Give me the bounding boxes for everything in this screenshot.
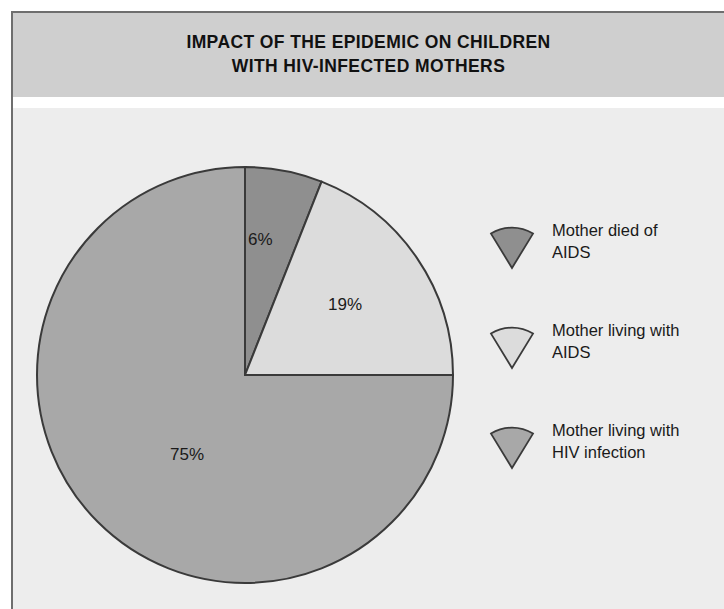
legend-line-1: Mother died of — [552, 220, 657, 242]
chart-figure: IMPACT OF THE EPIDEMIC ON CHILDREN WITH … — [0, 0, 724, 609]
legend-line-1: Mother living with — [552, 420, 679, 442]
legend-line-2: HIV infection — [552, 442, 679, 464]
legend-label-mother-living-with-aids: Mother living with AIDS — [552, 318, 679, 364]
legend-line-2: AIDS — [552, 342, 679, 364]
slice-label-living-hiv: 75% — [170, 445, 204, 465]
legend-item-mother-living-with-hiv: Mother living with HIV infection — [486, 418, 716, 518]
legend-wedge-icon-mother-living-with-hiv — [486, 420, 538, 472]
legend-label-mother-died-of-aids: Mother died of AIDS — [552, 218, 657, 264]
legend-wedge-icon-mother-living-with-aids — [486, 320, 538, 372]
legend-item-mother-died-of-aids: Mother died of AIDS — [486, 218, 716, 318]
chart-legend: Mother died of AIDS Mother living with A… — [486, 218, 716, 518]
legend-wedge-icon-mother-died-of-aids — [486, 220, 538, 272]
legend-label-mother-living-with-hiv: Mother living with HIV infection — [552, 418, 679, 464]
legend-line-2: AIDS — [552, 242, 657, 264]
legend-line-1: Mother living with — [552, 320, 679, 342]
legend-item-mother-living-with-aids: Mother living with AIDS — [486, 318, 716, 418]
slice-label-living-aids: 19% — [328, 295, 362, 315]
slice-label-died-aids: 6% — [248, 230, 273, 250]
